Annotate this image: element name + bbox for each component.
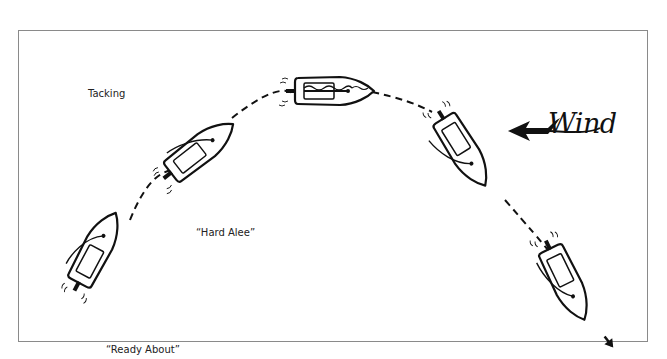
tacking-diagram — [0, 0, 667, 359]
boat-underway — [527, 228, 597, 327]
label-ready-about: “Ready About” — [106, 344, 180, 355]
boat-head-to-wind — [279, 77, 374, 106]
diagram-title: Tacking — [88, 88, 125, 99]
boat-new-tack — [415, 98, 498, 199]
boat-ready-about — [53, 204, 129, 304]
label-hard-alee: “Hard Alee” — [196, 227, 255, 238]
wind-label: Wind — [548, 108, 617, 139]
direction-arrow-icon — [601, 333, 617, 350]
boat-hard-alee — [147, 110, 242, 194]
